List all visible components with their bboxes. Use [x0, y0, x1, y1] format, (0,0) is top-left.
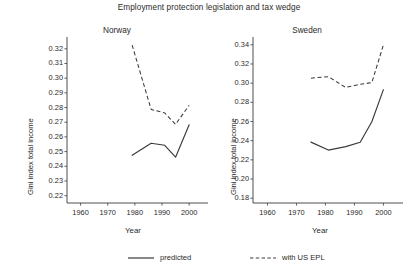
legend-marks	[0, 0, 418, 275]
legend-label-with-us-epl: with US EPL	[282, 253, 325, 262]
legend-label-predicted: predicted	[160, 253, 191, 262]
chart-figure: Employment protection legislation and ta…	[0, 0, 418, 275]
